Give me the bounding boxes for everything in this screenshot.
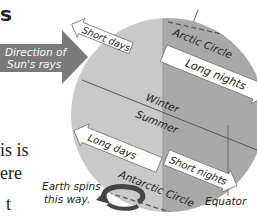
sun-arrow-label-1: Direction of: [5, 46, 68, 58]
equator-label: Equator: [205, 195, 247, 207]
sun-arrow-label-2: Sun's rays: [7, 58, 62, 70]
spin-label-1: Earth spins: [42, 180, 101, 192]
spin-label-2: this way.: [44, 193, 90, 205]
earth-seasons-diagram: Direction of Sun's rays Short days Long …: [0, 0, 257, 218]
